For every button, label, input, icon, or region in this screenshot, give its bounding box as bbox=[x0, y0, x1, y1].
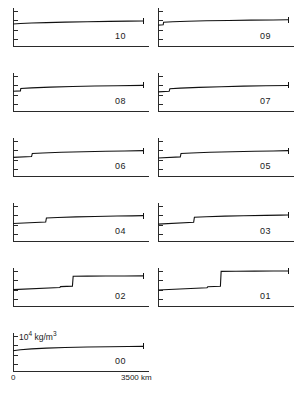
panel-axes bbox=[14, 8, 150, 46]
panel-label-04: 04 bbox=[115, 226, 126, 236]
density-curve bbox=[13, 346, 143, 350]
panel-02 bbox=[13, 268, 157, 320]
density-curve bbox=[158, 20, 288, 25]
panel-label-03: 03 bbox=[260, 226, 271, 236]
y-axis-unit-label: 104 kg/m3 bbox=[19, 330, 57, 342]
panel-01 bbox=[158, 268, 301, 320]
panel-label-05: 05 bbox=[260, 161, 271, 171]
density-curve bbox=[158, 271, 288, 290]
panel-07 bbox=[158, 73, 301, 125]
panel-axes bbox=[14, 268, 150, 306]
panel-label-02: 02 bbox=[115, 291, 126, 301]
panel-label-00: 00 bbox=[115, 356, 126, 366]
density-curve bbox=[13, 276, 143, 290]
density-curve bbox=[158, 151, 288, 158]
panel-label-01: 01 bbox=[260, 291, 271, 301]
panel-axes bbox=[14, 73, 150, 111]
panel-05 bbox=[158, 138, 301, 190]
panel-06 bbox=[13, 138, 157, 190]
density-curve bbox=[158, 215, 288, 224]
panel-label-10: 10 bbox=[115, 31, 126, 41]
density-profile-figure: 1009080706050403020100104 kg/m303500 km bbox=[0, 0, 301, 398]
panel-label-09: 09 bbox=[260, 31, 271, 41]
panel-10 bbox=[13, 8, 157, 60]
unit-rest-exponent: 3 bbox=[53, 330, 57, 337]
panel-label-06: 06 bbox=[115, 161, 126, 171]
density-curve bbox=[13, 21, 143, 24]
x-axis-end-label: 3500 km bbox=[121, 373, 152, 382]
panel-axes bbox=[159, 203, 295, 241]
density-curve bbox=[13, 151, 143, 158]
x-axis-start-label: 0 bbox=[11, 373, 15, 382]
panel-label-08: 08 bbox=[115, 96, 126, 106]
unit-rest: kg/m bbox=[32, 332, 53, 342]
panel-axes bbox=[159, 73, 295, 111]
panel-axes bbox=[14, 203, 150, 241]
density-curve bbox=[13, 216, 143, 224]
panel-08 bbox=[13, 73, 157, 125]
panel-axes bbox=[159, 8, 295, 46]
panel-axes bbox=[14, 138, 150, 176]
panel-label-07: 07 bbox=[260, 96, 271, 106]
density-curve bbox=[158, 85, 288, 91]
panel-03 bbox=[158, 203, 301, 255]
panel-axes bbox=[159, 268, 295, 306]
density-curve bbox=[13, 85, 143, 91]
panel-09 bbox=[158, 8, 301, 60]
panel-04 bbox=[13, 203, 157, 255]
